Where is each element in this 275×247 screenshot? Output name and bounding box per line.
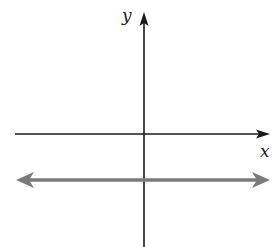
- x-axis: [15, 130, 270, 139]
- coordinate-plane-diagram: y x: [0, 0, 275, 247]
- horizontal-line-graph: [16, 172, 270, 188]
- y-axis: [140, 12, 149, 247]
- x-axis-label: x: [260, 141, 270, 161]
- y-axis-label: y: [121, 5, 132, 25]
- graph-svg: y x: [0, 0, 275, 247]
